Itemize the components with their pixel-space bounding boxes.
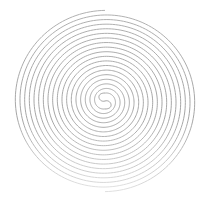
spiral-arm-b [20,15,195,192]
spiral-arm-a [15,10,190,187]
spiral-core-s-curve [99,93,111,109]
double-spiral-graphic [0,0,209,202]
